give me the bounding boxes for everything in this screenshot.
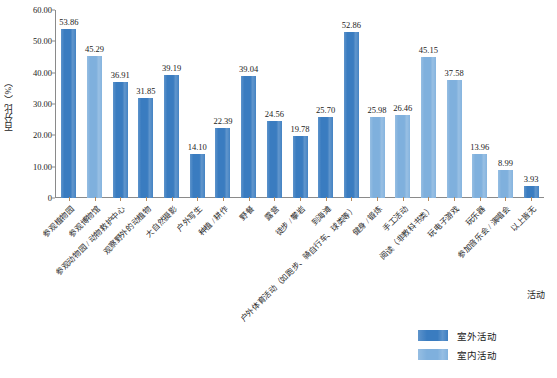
x-axis-tickmark [223,197,224,201]
y-axis-tick-label: 60.00 [6,5,52,15]
x-axis-tickmark [69,197,70,201]
bar-value-label: 26.46 [393,103,412,113]
x-axis-tickmark [146,197,147,201]
bar-value-label: 39.19 [162,63,181,73]
bar-sheen [190,154,205,198]
bar-value-label: 8.99 [498,158,513,168]
legend-color-swatch [418,330,448,341]
bar-value-label: 36.91 [111,70,130,80]
y-axis-tick-label: 30.00 [6,99,52,109]
bar [447,80,462,198]
x-axis-tickmark [454,197,455,201]
bar-sheen [498,170,513,198]
y-axis-tickmark [51,41,55,42]
bar-chart: 百分比（%） 010.0020.0030.0040.0050.0060.00 5… [0,0,557,378]
x-axis-title: 活动 [527,288,545,301]
bar [138,98,153,198]
bar-sheen [138,98,153,198]
bar-value-label: 37.58 [445,68,464,78]
x-axis-tickmark [531,197,532,201]
bar-sheen [215,128,230,198]
bar-value-label: 3.93 [524,174,539,184]
x-axis-tickmark [197,197,198,201]
y-axis-tickmark [51,166,55,167]
x-axis-tickmark [326,197,327,201]
bar-value-label: 31.85 [136,86,155,96]
legend-item-label: 室外活动 [457,329,497,343]
bar-value-label: 45.15 [419,45,438,55]
bar-sheen [267,121,282,198]
legend-item[interactable]: 室外活动 [418,330,497,341]
x-axis-tickmark [351,197,352,201]
legend-item[interactable]: 室内活动 [418,349,497,360]
legend-swatch-sheen [418,330,448,341]
bar [370,117,385,198]
legend-item-label: 室内活动 [457,348,497,362]
bar-sheen [293,136,308,198]
chart-legend: 室外活动室内活动 [418,330,497,368]
y-axis-tick-label: 40.00 [6,68,52,78]
bar-sheen [87,56,102,198]
y-axis-tickmark [51,135,55,136]
bar-value-label: 22.39 [213,116,232,126]
bar-sheen [241,76,256,198]
y-axis-tick-label: 0 [6,193,52,203]
bar-value-label: 25.70 [316,105,335,115]
bar [61,29,76,198]
bar-value-label: 39.04 [239,64,258,74]
bar [293,136,308,198]
bar [498,170,513,198]
y-axis-tick-label: 10.00 [6,162,52,172]
bar [318,117,333,198]
x-axis-tickmark [377,197,378,201]
bar-sheen [447,80,462,198]
y-axis-tick-label: 50.00 [6,36,52,46]
x-axis-tickmark [505,197,506,201]
x-axis-tickmark [95,197,96,201]
bar-value-label: 19.78 [290,124,309,134]
y-axis-tickmark [51,72,55,73]
bar [190,154,205,198]
bar-sheen [318,117,333,198]
bar-value-label: 25.98 [367,105,386,115]
bar-value-label: 13.96 [470,142,489,152]
x-axis-tickmark [428,197,429,201]
bar-sheen [113,82,128,198]
bar-sheen [472,154,487,198]
bar [164,75,179,198]
bar [421,57,436,198]
bar-value-label: 53.86 [59,17,78,27]
y-axis-tickmark [51,198,55,199]
bar-sheen [421,57,436,198]
x-axis-tickmark [249,197,250,201]
legend-color-swatch [418,349,448,360]
bar-sheen [61,29,76,198]
y-axis-tickmark [51,10,55,11]
bar-value-label: 24.56 [265,109,284,119]
y-axis-tickmark [51,104,55,105]
x-axis-tickmark [300,197,301,201]
plot-area: 53.8645.2936.9131.8539.1914.1022.3939.04… [56,10,544,198]
x-axis-tickmark [480,197,481,201]
bar [241,76,256,198]
bar-sheen [395,115,410,198]
bar-sheen [370,117,385,198]
y-axis-tick-label: 20.00 [6,130,52,140]
bar [87,56,102,198]
bar [344,32,359,198]
bar [395,115,410,198]
x-axis-tickmark [274,197,275,201]
bar-value-label: 14.10 [188,142,207,152]
x-axis-tickmark [172,197,173,201]
bar-sheen [344,32,359,198]
bar-value-label: 52.86 [342,20,361,30]
bar [472,154,487,198]
x-axis-tickmark [403,197,404,201]
bar [113,82,128,198]
bar [267,121,282,198]
legend-swatch-sheen [418,349,448,360]
bar [215,128,230,198]
x-axis-tickmark [120,197,121,201]
bar-sheen [164,75,179,198]
bar-value-label: 45.29 [85,44,104,54]
